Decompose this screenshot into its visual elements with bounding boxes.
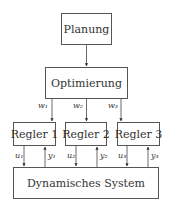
edge-label-w2: w₂: [73, 101, 83, 110]
regler-2-label: Regler 2: [62, 128, 110, 141]
edge-label-y1: y₁: [48, 151, 56, 160]
edge-label-y2: y₂: [100, 151, 108, 160]
regler-3-label: Regler 3: [115, 128, 163, 141]
regler-1-node: Regler 1: [13, 122, 56, 146]
system-label: Dynamisches System: [27, 177, 145, 190]
edge-label-u2: u₂: [67, 151, 75, 160]
edge-label-w1: w₁: [38, 101, 48, 110]
optimierung-node: Optimierung: [45, 67, 128, 99]
edge-label-u1: u₁: [15, 151, 23, 160]
optimierung-label: Optimierung: [51, 77, 122, 90]
planung-label: Planung: [64, 23, 110, 36]
regler-3-node: Regler 3: [117, 122, 160, 146]
regler-2-node: Regler 2: [65, 122, 107, 146]
edge-label-y3: y₃: [151, 151, 159, 160]
edge-label-w3: w₃: [108, 101, 118, 110]
dynamisches-system-node: Dynamisches System: [13, 167, 159, 199]
planung-node: Planung: [61, 13, 112, 45]
regler-1-label: Regler 1: [11, 128, 59, 141]
edge-label-u3: u₃: [118, 151, 126, 160]
